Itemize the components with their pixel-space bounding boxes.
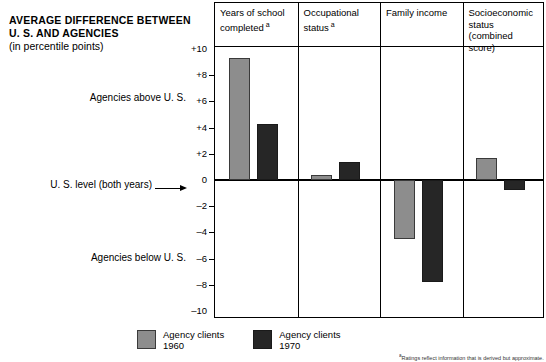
y-axis-tick-label: +6 [183, 95, 207, 106]
panel-header-4: Socioeconomicstatus(combined score) [463, 3, 546, 47]
y-axis-tick-label: –8 [183, 279, 207, 290]
bar-1-series-2 [257, 124, 278, 180]
y-axis-tick-label: –2 [183, 200, 207, 211]
legend-label-2: Agency clients1970 [279, 330, 340, 351]
chart-panel-2 [298, 47, 381, 317]
annotation-us-level: U. S. level (both years) [0, 179, 152, 190]
y-axis-tick-label: +10 [183, 43, 207, 54]
legend-label-line-2: 1960 [163, 341, 224, 352]
panel-header-row: Years of schoolcompleted aOccupationalst… [215, 3, 543, 47]
y-axis-tick-label: +2 [183, 148, 207, 159]
y-axis-tick-label: –4 [183, 226, 207, 237]
panel-header-line: Family income [386, 7, 458, 19]
footnote-text: Ratings reflect information that is deri… [402, 355, 544, 361]
light-gray-swatch [137, 330, 156, 349]
y-axis-tick-label: –10 [183, 305, 207, 316]
panel-header-line: Years of school [220, 7, 293, 19]
y-axis-tick-label: 0 [183, 174, 207, 185]
bar-3-series-2 [422, 180, 443, 282]
bar-3-series-1 [394, 180, 415, 239]
y-axis-tick-label: +8 [183, 69, 207, 80]
panel-header-line: completed a [220, 19, 293, 34]
y-axis: +10+8+6+4+20–2–4–6–8–10 [186, 2, 215, 318]
header-footnote-marker: a [329, 21, 335, 28]
bar-4-series-1 [476, 158, 497, 180]
bar-2-series-2 [339, 162, 360, 180]
chart-title-line-1: AVERAGE DIFFERENCE BETWEEN [9, 14, 214, 27]
chart-panel-1 [215, 47, 298, 317]
chart-container: AVERAGE DIFFERENCE BETWEEN U. S. AND AGE… [0, 0, 546, 362]
panel-header-line: status [469, 19, 541, 31]
chart-footnote: aRatings reflect information that is der… [399, 353, 546, 362]
panel-header-line: Socioeconomic [469, 7, 541, 19]
dark-swatch [253, 330, 272, 349]
us-level-arrow-icon [155, 185, 188, 192]
chart-legend: Agency clients1960Agency clients1970 [137, 330, 370, 351]
legend-label-line-1: Agency clients [279, 330, 340, 341]
annotation-agencies-above: Agencies above U. S. [0, 92, 186, 103]
legend-label-line-2: 1970 [279, 341, 340, 352]
header-footnote-marker: a [264, 21, 270, 28]
bar-4-series-2 [504, 180, 525, 190]
panel-header-1: Years of schoolcompleted a [215, 3, 298, 47]
legend-label-1: Agency clients1960 [163, 330, 224, 351]
bar-1-series-1 [229, 58, 250, 180]
panel-header-line: status a [304, 19, 376, 34]
legend-item-1: Agency clients1960 [137, 330, 224, 351]
panel-row [215, 47, 543, 317]
panel-header-line: Occupational [304, 7, 376, 19]
legend-label-line-1: Agency clients [163, 330, 224, 341]
chart-title-line-2: U. S. AND AGENCIES [9, 27, 214, 40]
annotation-agencies-below: Agencies below U. S. [0, 252, 186, 263]
y-axis-tick-label: –6 [183, 253, 207, 264]
panel-header-3: Family income [380, 3, 463, 47]
bar-2-series-1 [311, 175, 332, 180]
panel-header-2: Occupationalstatus a [298, 3, 381, 47]
legend-item-2: Agency clients1970 [253, 330, 340, 351]
y-axis-tick-label: +4 [183, 122, 207, 133]
